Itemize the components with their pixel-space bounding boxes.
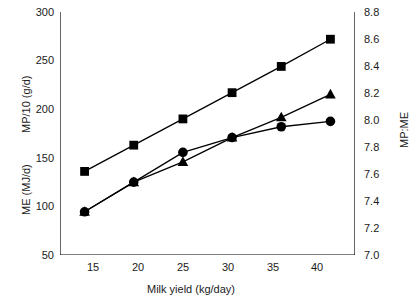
x-tick-label-40: 40 [310, 261, 324, 273]
y-axis-title-right: MP:ME [398, 112, 410, 148]
axis-spines [60, 12, 355, 255]
x-tick-label-35: 35 [266, 261, 280, 273]
data-point-triangle-35 [276, 112, 287, 122]
series-line-square [85, 39, 331, 171]
plot-area [60, 12, 355, 255]
right-tick-label-8-8: 8.8 [364, 6, 379, 18]
y-axis-title-left-me: ME (MJ/d) [20, 164, 32, 215]
data-point-triangle-25 [178, 156, 189, 166]
right-tick-label-8-6: 8.6 [364, 33, 379, 45]
right-tick-label-7-0: 7.0 [364, 249, 379, 261]
left-tick-label-150: 150 [24, 152, 54, 164]
x-axis-title: Milk yield (kg/day) [147, 283, 235, 295]
data-point-square-25 [179, 115, 188, 124]
right-tick-label-7-6: 7.6 [364, 168, 379, 180]
data-point-square-40 [326, 35, 335, 44]
x-tick-label-15: 15 [86, 261, 100, 273]
chart-svg [60, 12, 355, 255]
data-point-triangle-40 [325, 89, 336, 99]
right-tick-label-8-4: 8.4 [364, 60, 379, 72]
series-line-circle [85, 121, 331, 211]
x-tick-label-30: 30 [221, 261, 235, 273]
data-point-square-30 [228, 88, 237, 97]
data-point-circle-40 [326, 117, 336, 127]
data-point-square-15 [80, 167, 89, 176]
x-tick-label-25: 25 [176, 261, 190, 273]
series-line-triangle [85, 94, 331, 211]
right-tick-label-7-2: 7.2 [364, 222, 379, 234]
data-point-square-35 [277, 62, 286, 71]
x-tick-label-20: 20 [131, 261, 145, 273]
y-axis-title-left-mp: MP/10 (g/d) [20, 76, 32, 133]
left-tick-label-300: 300 [24, 6, 54, 18]
series-layer [79, 35, 335, 217]
right-tick-label-7-4: 7.4 [364, 195, 379, 207]
right-tick-label-7-8: 7.8 [364, 141, 379, 153]
data-point-circle-35 [276, 122, 286, 132]
left-tick-label-250: 250 [24, 54, 54, 66]
data-point-circle-25 [178, 148, 188, 158]
right-tick-label-8-0: 8.0 [364, 114, 379, 126]
right-tick-label-8-2: 8.2 [364, 87, 379, 99]
left-tick-label-50: 50 [24, 249, 54, 261]
data-point-square-20 [129, 141, 138, 150]
chart-figure: 300 250 200 150 100 50 8.8 8.6 8.4 8.2 8… [0, 0, 412, 305]
